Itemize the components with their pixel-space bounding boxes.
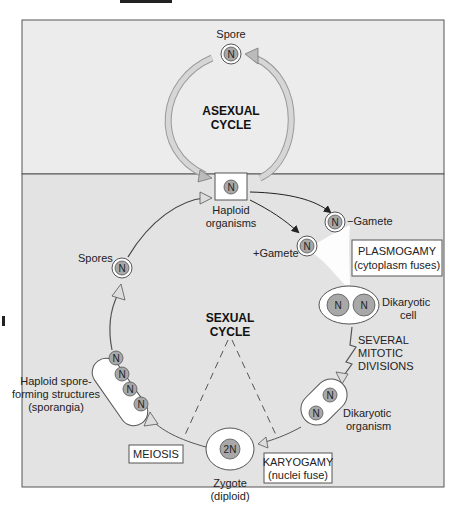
dikaryotic-cell-label-1: Dikaryotic <box>382 296 431 308</box>
sexual-title-2: CYCLE <box>210 325 251 339</box>
sporangia-label-2: forming structures <box>12 388 101 400</box>
minus-gamete-label: −Gamete <box>347 215 393 227</box>
haploid-label-2: organisms <box>206 217 257 229</box>
sporangia-nucleus-3: N <box>126 384 133 395</box>
spores-label: Spores <box>78 252 113 264</box>
dikaryotic-org-label-1: Dikaryotic <box>343 407 392 419</box>
zygote-label-2: (diploid) <box>210 490 249 502</box>
mitotic-label-1: SEVERAL <box>358 334 409 346</box>
dikaryotic-cell-label-2: cell <box>400 309 417 321</box>
spore-label: Spore <box>216 28 245 40</box>
sporangia-nucleus-2: N <box>118 369 125 380</box>
spores-cell: N <box>112 258 132 278</box>
dikaryotic-cell: N N <box>319 286 379 324</box>
karyogamy-label-2: (nuclei fuse) <box>268 469 328 481</box>
dikaryotic-nucleus-1: N <box>334 300 341 311</box>
plus-gamete-cell: N <box>297 236 317 256</box>
dikaryotic-nucleus-2: N <box>360 300 367 311</box>
plus-gamete-label: +Gamete <box>253 247 299 259</box>
margin-mark <box>2 316 5 326</box>
spores-nucleus: N <box>118 263 125 274</box>
dikaryotic-org-nucleus-1: N <box>326 390 333 401</box>
minus-gamete-cell: N <box>325 212 345 232</box>
asexual-panel <box>22 20 444 174</box>
mitotic-label-3: DIVISIONS <box>358 360 414 372</box>
haploid-organism: N <box>215 173 247 200</box>
plus-gamete-nucleus: N <box>303 241 310 252</box>
asexual-title-1: ASEXUAL <box>202 104 259 118</box>
zygote-nucleus: 2N <box>224 444 237 455</box>
spore-nucleus: N <box>227 49 234 60</box>
dikaryotic-org-nucleus-2: N <box>312 408 319 419</box>
sexual-title-1: SEXUAL <box>206 311 255 325</box>
top-bar <box>120 0 172 3</box>
asexual-title-2: CYCLE <box>211 118 252 132</box>
zygote-cell: 2N <box>206 428 254 470</box>
dikaryotic-org-label-2: organism <box>346 420 391 432</box>
sporangia-nucleus-1: N <box>112 353 119 364</box>
meiosis-label: MEIOSIS <box>133 448 179 460</box>
fungal-life-cycle-diagram: Spore N ASEXUAL CYCLE N Haploid organism… <box>0 0 457 517</box>
sporangia-label-1: Haploid spore- <box>20 375 92 387</box>
sporangia-label-3: (sporangia) <box>28 401 84 413</box>
minus-gamete-nucleus: N <box>331 217 338 228</box>
plasmogamy-label-1: PLASMOGAMY <box>358 245 437 257</box>
zygote-label-1: Zygote <box>213 477 247 489</box>
sporangia-nucleus-4: N <box>137 399 144 410</box>
haploid-nucleus: N <box>227 182 234 193</box>
spore-cell: N <box>221 44 241 64</box>
mitotic-label-2: MITOTIC <box>358 347 403 359</box>
haploid-label-1: Haploid <box>212 204 249 216</box>
karyogamy-label-1: KARYOGAMY <box>263 456 334 468</box>
plasmogamy-label-2: (cytoplasm fuses) <box>354 259 440 271</box>
